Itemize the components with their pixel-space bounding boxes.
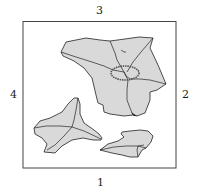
- left-piece: [34, 98, 102, 153]
- diagram-canvas: [0, 0, 200, 189]
- right-piece: [100, 130, 153, 157]
